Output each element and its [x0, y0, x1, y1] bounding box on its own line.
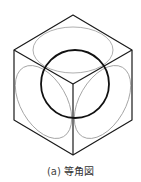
- right-face-ellipse: [63, 56, 141, 148]
- inner-edge-right: [73, 50, 132, 84]
- inner-edge-left: [14, 50, 73, 84]
- cube-edges: [14, 15, 132, 155]
- isometric-cube-diagram: [0, 0, 141, 165]
- sphere-outline: [41, 50, 109, 118]
- caption-text: 等角図: [64, 166, 94, 177]
- figure-caption: (a) 等角図: [0, 163, 141, 178]
- face-inscribed-ellipses: [4, 27, 141, 148]
- caption-label: (a): [47, 166, 61, 177]
